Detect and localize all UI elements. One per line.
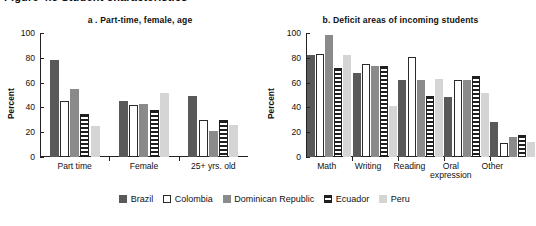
x-tick-label: Reading — [389, 157, 430, 180]
bar-peru — [229, 125, 238, 157]
chart-b-y-tick-60: 60 — [267, 78, 306, 88]
legend-item-colombia: Colombia — [163, 194, 213, 204]
bars — [352, 33, 398, 157]
legend-item-peru: Peru — [379, 194, 410, 204]
legend-swatch-colombia-icon — [163, 195, 171, 203]
chart-a-y-tick-40: 40 — [1, 102, 40, 112]
bars — [40, 33, 109, 157]
bar-peru — [435, 79, 443, 157]
legend-swatch-dominican-icon — [223, 195, 231, 203]
bar-colombia — [408, 57, 416, 157]
chart-b-y-tick-100: 100 — [267, 28, 306, 38]
x-tick-label: Oralexpression — [430, 157, 472, 180]
chart-a-y-tick-60: 60 — [1, 78, 40, 88]
bar-peru — [481, 93, 489, 157]
chart-a-y-tick-100: 100 — [1, 28, 40, 38]
legend-label: Brazil — [131, 194, 154, 204]
bars — [398, 33, 444, 157]
chart-b-y-tick-20: 20 — [267, 127, 306, 137]
bar-ecuador — [80, 114, 89, 157]
bar-dominican — [209, 131, 218, 157]
legend-label: Peru — [391, 194, 410, 204]
bar-dominican — [417, 80, 425, 157]
bar-colombia — [129, 105, 138, 157]
chart-a-plot-area: Part timeFemale25+ yrs. old 020406080100 — [40, 33, 248, 157]
chart-legend: BrazilColombiaDominican RepublicEcuadorP… — [0, 194, 529, 204]
bar-group — [40, 33, 109, 157]
chart-b-y-tick-40: 40 — [267, 102, 306, 112]
bar-ecuador — [219, 120, 228, 157]
chart-panel-a: a . Part-time, female, age Percent Part … — [0, 7, 262, 187]
bar-peru — [91, 126, 100, 157]
bar-brazil — [444, 97, 452, 157]
cut-off-figure-header: Figure 4.5 Student characteristics — [0, 0, 529, 7]
bar-brazil — [490, 122, 498, 157]
legend-swatch-ecuador-icon — [324, 195, 332, 203]
bar-ecuador — [518, 135, 526, 157]
chart-b-x-tick-labels: MathWritingReadingOralexpressionOther — [306, 157, 513, 180]
legend-label: Colombia — [175, 194, 213, 204]
chart-a-x-tick-labels: Part timeFemale25+ yrs. old — [40, 157, 248, 171]
bar-ecuador — [380, 66, 388, 157]
chart-b-y-tick-80: 80 — [267, 53, 306, 63]
bar-colombia — [316, 54, 324, 157]
x-tick-label: Part time — [40, 157, 109, 171]
bar-dominican — [325, 35, 333, 157]
bar-ecuador — [150, 110, 159, 157]
bar-group — [444, 33, 490, 157]
legend-label: Ecuador — [336, 194, 370, 204]
bar-peru — [343, 55, 351, 157]
charts-container: a . Part-time, female, age Percent Part … — [0, 7, 529, 187]
bar-dominican — [139, 104, 148, 157]
bar-dominican — [70, 89, 79, 157]
x-tick-label: Writing — [347, 157, 388, 180]
bar-group — [306, 33, 352, 157]
legend-item-ecuador: Ecuador — [324, 194, 369, 204]
bars — [490, 33, 536, 157]
legend-label: Dominican Republic — [234, 194, 314, 204]
bar-brazil — [50, 60, 59, 157]
bar-group — [490, 33, 536, 157]
bar-colombia — [454, 80, 462, 157]
chart-a-y-tick-0: 0 — [1, 152, 40, 162]
legend-swatch-brazil-icon — [119, 195, 127, 203]
x-tick-label: Math — [306, 157, 347, 180]
chart-a-bar-groups — [40, 33, 248, 157]
bar-group — [109, 33, 178, 157]
bar-ecuador — [334, 68, 342, 157]
legend-item-brazil: Brazil — [119, 194, 153, 204]
chart-a-y-tick-80: 80 — [1, 53, 40, 63]
bar-group — [179, 33, 248, 157]
bar-brazil — [307, 55, 315, 157]
bar-brazil — [188, 96, 197, 157]
bar-ecuador — [426, 96, 434, 157]
bar-ecuador — [472, 76, 480, 157]
bar-brazil — [119, 101, 128, 157]
chart-panel-b: b. Deficit areas of incoming students Pe… — [262, 7, 529, 187]
bar-brazil — [353, 73, 361, 157]
legend-item-dominican: Dominican Republic — [223, 194, 315, 204]
chart-a-y-tick-20: 20 — [1, 127, 40, 137]
bar-dominican — [371, 66, 379, 157]
bar-colombia — [500, 143, 508, 157]
chart-a-title: a . Part-time, female, age — [0, 15, 262, 25]
x-tick-label: 25+ yrs. old — [179, 157, 248, 171]
chart-b-y-tick-0: 0 — [267, 152, 306, 162]
x-tick-label: Other — [472, 157, 513, 180]
cut-off-figure-header-text: Figure 4.5 Student characteristics — [4, 0, 529, 3]
legend-swatch-peru-icon — [379, 195, 387, 203]
bar-peru — [527, 142, 535, 157]
chart-b-title: b. Deficit areas of incoming students — [262, 15, 529, 25]
bars — [306, 33, 352, 157]
bar-peru — [160, 93, 169, 157]
x-tick-label: Female — [109, 157, 178, 171]
bar-colombia — [362, 64, 370, 157]
bar-group — [352, 33, 398, 157]
bar-colombia — [199, 120, 208, 157]
chart-b-bar-groups — [306, 33, 513, 157]
chart-b-plot-area: MathWritingReadingOralexpressionOther 02… — [306, 33, 513, 157]
bar-peru — [389, 106, 397, 157]
bar-dominican — [509, 137, 517, 157]
bars — [444, 33, 490, 157]
bar-group — [398, 33, 444, 157]
